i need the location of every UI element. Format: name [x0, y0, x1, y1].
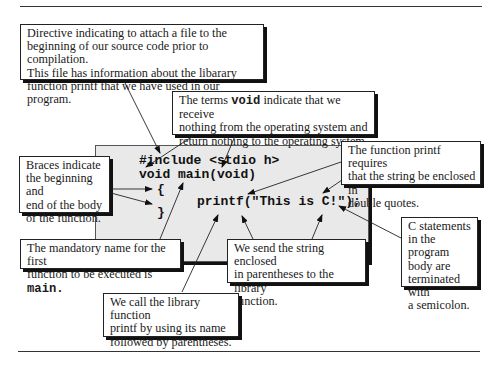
- callout-text-line: end of the body: [26, 199, 105, 212]
- callout-text-line: We call the library function: [110, 296, 234, 322]
- callout-text-line: The function printf requires: [348, 144, 476, 170]
- top-rule: [20, 6, 482, 7]
- callout-include-directive: Directive indicating to attach a file to…: [20, 24, 264, 80]
- callout-text: function to be executed is: [27, 267, 152, 281]
- code-line-include: #include <stdio h>: [139, 154, 279, 168]
- bottom-rule: [18, 351, 480, 352]
- callout-text-line: in the program: [408, 233, 473, 259]
- callout-double-quotes: The function printf requires that the st…: [341, 141, 481, 185]
- callout-text-line: terminated with: [408, 273, 473, 299]
- callout-text-line: printf by using its name: [110, 322, 234, 335]
- callout-text-line: The terms void indicate that we receive: [179, 94, 370, 121]
- callout-text-line: body are: [408, 260, 473, 273]
- keyword-main: main.: [27, 282, 64, 296]
- code-line-printf: printf("This is C!");: [197, 195, 361, 209]
- callout-text-line: nothing from the operating system and: [179, 121, 370, 134]
- callout-braces: Braces indicate the beginning and end of…: [19, 156, 110, 213]
- callout-text-line: We send the string enclosed: [234, 242, 361, 268]
- callout-text-line: function to be executed is main.: [27, 268, 176, 295]
- callout-text-line: the beginning and: [26, 172, 105, 198]
- callout-text-line: that the string be enclosed in: [348, 170, 476, 196]
- callout-text-line: of the function.: [26, 212, 105, 225]
- callout-text-line: function.: [234, 295, 361, 308]
- callout-text-line: followed by parentheses.: [110, 336, 234, 349]
- callout-semicolon: C statements in the program body are ter…: [401, 217, 478, 287]
- callout-send-string: We send the string enclosed in parenthes…: [227, 239, 366, 283]
- callout-text-line: beginning of our source code prior to co…: [27, 40, 259, 66]
- callout-text: The terms: [179, 93, 231, 107]
- callout-text-line: This file has information about the liba…: [27, 67, 259, 80]
- callout-main-name: The mandatory name for the first functio…: [20, 239, 181, 269]
- keyword-void: void: [231, 94, 260, 108]
- callout-call-function: We call the library function printf by u…: [103, 293, 239, 337]
- callout-text-line: double quotes.: [348, 197, 476, 210]
- callout-text-line: The mandatory name for the first: [27, 242, 176, 268]
- code-brace-open: {: [157, 183, 165, 197]
- callout-void: The terms void indicate that we receive …: [172, 91, 375, 135]
- code-brace-close: }: [157, 206, 165, 220]
- callout-text-line: in parentheses to the library: [234, 268, 361, 294]
- code-line-main: void main(void): [139, 168, 256, 182]
- callout-text-line: a semicolon.: [408, 299, 473, 312]
